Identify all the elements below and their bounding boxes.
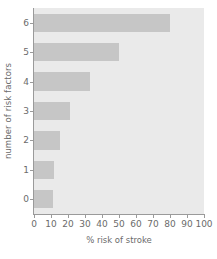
x-tick-mark-20 <box>68 215 69 218</box>
bar-chart-figure: number of risk factors 0123456 010203040… <box>0 0 217 259</box>
y-axis-tick-labels: 0123456 <box>16 8 31 214</box>
x-tick-mark-90 <box>187 215 188 218</box>
bar-row <box>34 161 204 179</box>
bar-row <box>34 102 204 120</box>
y-tick-mark-6 <box>30 23 33 24</box>
bar-row <box>34 14 204 32</box>
y-tick-mark-3 <box>30 111 33 112</box>
x-tick-label-90: 90 <box>181 219 192 229</box>
x-tick-label-100: 100 <box>195 219 212 229</box>
y-tick-label-1: 1 <box>23 165 29 175</box>
plot-area <box>34 8 204 214</box>
y-tick-label-6: 6 <box>23 18 29 28</box>
bar-row <box>34 43 204 61</box>
bar-0 <box>34 190 53 208</box>
x-tick-mark-0 <box>34 215 35 218</box>
bar-row <box>34 190 204 208</box>
y-tick-label-3: 3 <box>23 106 29 116</box>
x-tick-mark-40 <box>102 215 103 218</box>
y-tick-mark-0 <box>30 199 33 200</box>
y-tick-mark-4 <box>30 82 33 83</box>
bar-3 <box>34 102 70 120</box>
x-tick-mark-80 <box>170 215 171 218</box>
x-tick-label-30: 30 <box>79 219 90 229</box>
x-tick-mark-30 <box>85 215 86 218</box>
bar-4 <box>34 72 90 90</box>
x-tick-mark-70 <box>153 215 154 218</box>
x-tick-label-60: 60 <box>130 219 141 229</box>
y-tick-label-5: 5 <box>23 47 29 57</box>
x-tick-mark-10 <box>51 215 52 218</box>
x-tick-label-0: 0 <box>31 219 37 229</box>
bar-row <box>34 72 204 90</box>
x-tick-mark-50 <box>119 215 120 218</box>
bar-1 <box>34 161 54 179</box>
y-tick-label-4: 4 <box>23 77 29 87</box>
y-tick-label-2: 2 <box>23 135 29 145</box>
x-tick-label-20: 20 <box>62 219 73 229</box>
x-axis-title: % risk of stroke <box>33 235 205 245</box>
y-tick-mark-2 <box>30 140 33 141</box>
x-tick-label-70: 70 <box>147 219 158 229</box>
y-tick-mark-5 <box>30 52 33 53</box>
bar-2 <box>34 131 60 149</box>
x-tick-label-80: 80 <box>164 219 175 229</box>
y-axis-title-text: number of risk factors <box>3 63 13 159</box>
x-tick-label-40: 40 <box>96 219 107 229</box>
y-axis-spine <box>33 8 34 214</box>
x-tick-label-50: 50 <box>113 219 124 229</box>
bar-6 <box>34 14 170 32</box>
bar-5 <box>34 43 119 61</box>
x-tick-mark-100 <box>204 215 205 218</box>
bar-row <box>34 131 204 149</box>
x-tick-mark-60 <box>136 215 137 218</box>
x-tick-label-10: 10 <box>45 219 56 229</box>
y-tick-mark-1 <box>30 170 33 171</box>
y-tick-label-0: 0 <box>23 194 29 204</box>
y-axis-title: number of risk factors <box>0 0 16 222</box>
